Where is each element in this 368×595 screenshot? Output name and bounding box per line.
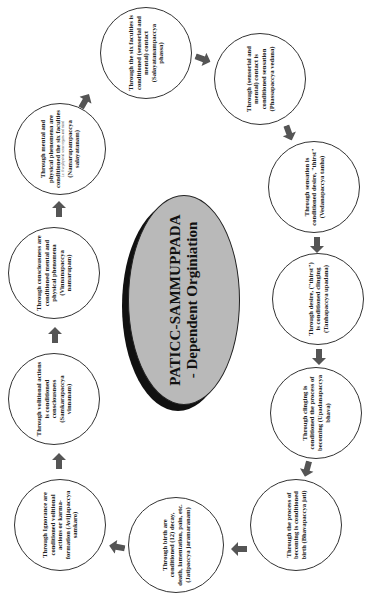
node-consciousness: Through consciousness are conditioned me…: [8, 227, 100, 319]
node-text: Through clinging is conditioned the proc…: [301, 374, 331, 452]
arrow-icon: [52, 453, 66, 469]
arrow-icon: [48, 327, 62, 343]
arrow-icon: [193, 50, 213, 69]
diagram-subtitle: - Dependent Orginiation: [184, 222, 201, 379]
node-mental-physical: Through mental and physical phenomena ar…: [14, 103, 106, 195]
node-birth: Through birth are conditioned (12) decay…: [128, 497, 224, 593]
node-text: Through volitional actions is conditione…: [35, 360, 73, 438]
arrow-icon: [310, 237, 324, 253]
node-becoming: Through the process of becoming is condi…: [250, 479, 342, 571]
arrow-icon: [231, 542, 247, 556]
node-text: Through the process of becoming is condi…: [285, 486, 308, 564]
node-text: Through sensation is conditioned desire,…: [303, 148, 326, 226]
arrow-icon: [298, 459, 316, 478]
node-volitional-actions: Through volitional actions is conditione…: [8, 353, 100, 445]
node-text-pali: (Namarupampaccya salayatanam): [66, 120, 81, 178]
node-sensation: Through sensation is conditioned desire,…: [268, 141, 360, 233]
node-text: Through consciousness are conditioned me…: [35, 234, 73, 312]
node-text: Through desire, ("thirst") is conditione…: [307, 260, 330, 338]
node-six-faculties: Through the six faculties is conditioned…: [100, 7, 192, 99]
node-text: Through (sensorial and mental) contact i…: [245, 40, 275, 118]
arrow-icon: [312, 349, 326, 365]
node-text: Through birth are conditioned (12) decay…: [161, 504, 191, 586]
node-desire: Through desire, ("thirst") is conditione…: [272, 253, 364, 345]
node-text: Through mental and physical phenomena ar…: [39, 110, 81, 188]
node-text: Through Ignorance are conditioned voliti…: [41, 486, 79, 564]
node-text: Through the six faculties is conditioned…: [127, 14, 165, 92]
arrow-icon: [52, 201, 66, 217]
node-contact: Through (sensorial and mental) contact i…: [214, 33, 306, 125]
node-ignorance: Through Ignorance are conditioned voliti…: [14, 479, 106, 571]
node-clinging: Through clinging is conditioned the proc…: [270, 367, 362, 459]
diagram-title: PATICC-SAMMUPPADA: [167, 214, 184, 386]
arrow-icon: [108, 539, 126, 556]
central-title-ellipse: PATICC-SAMMUPPADA - Dependent Orginiatio…: [128, 195, 240, 405]
arrow-icon: [280, 123, 299, 143]
node-text-main: Through mental and physical phenomena ar…: [39, 110, 61, 188]
ellipse-face: PATICC-SAMMUPPADA - Dependent Orginiatio…: [128, 195, 240, 405]
dependent-origination-diagram: PATICC-SAMMUPPADA - Dependent Orginiatio…: [0, 0, 368, 595]
